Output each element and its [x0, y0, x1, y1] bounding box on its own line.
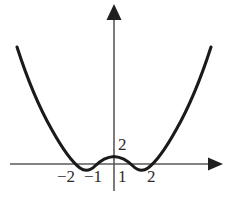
arrow-right-icon — [208, 158, 223, 171]
x-tick-label-neg1: −1 — [84, 168, 102, 185]
arrow-up-icon — [107, 4, 122, 20]
x-tick-label-pos1: 1 — [118, 168, 127, 185]
graph-figure: −2 −1 1 2 2 — [0, 0, 228, 197]
x-tick-label-neg2: −2 — [57, 168, 75, 185]
y-value-label: 2 — [118, 136, 127, 153]
x-tick-label-pos2: 2 — [147, 168, 156, 185]
plot-canvas — [0, 0, 228, 197]
